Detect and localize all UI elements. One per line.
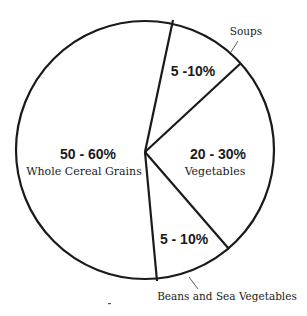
pie-chart: 50 - 60% Whole Cereal Grains 5 -10% Soup… bbox=[0, 0, 307, 316]
grains-label: Whole Cereal Grains bbox=[26, 165, 142, 178]
soups-callout-line bbox=[231, 41, 238, 52]
soups-label: Soups bbox=[230, 25, 262, 37]
beans-label: Beans and Sea Vegetables bbox=[157, 290, 297, 302]
vegetables-percent: 20 - 30% bbox=[190, 146, 247, 162]
grains-percent: 50 - 60% bbox=[60, 146, 117, 162]
soups-percent: 5 -10% bbox=[171, 63, 216, 79]
stray-mark bbox=[108, 303, 111, 304]
beans-callout-line bbox=[189, 277, 198, 289]
vegetables-label: Vegetables bbox=[184, 165, 246, 178]
beans-percent: 5 - 10% bbox=[160, 231, 209, 247]
